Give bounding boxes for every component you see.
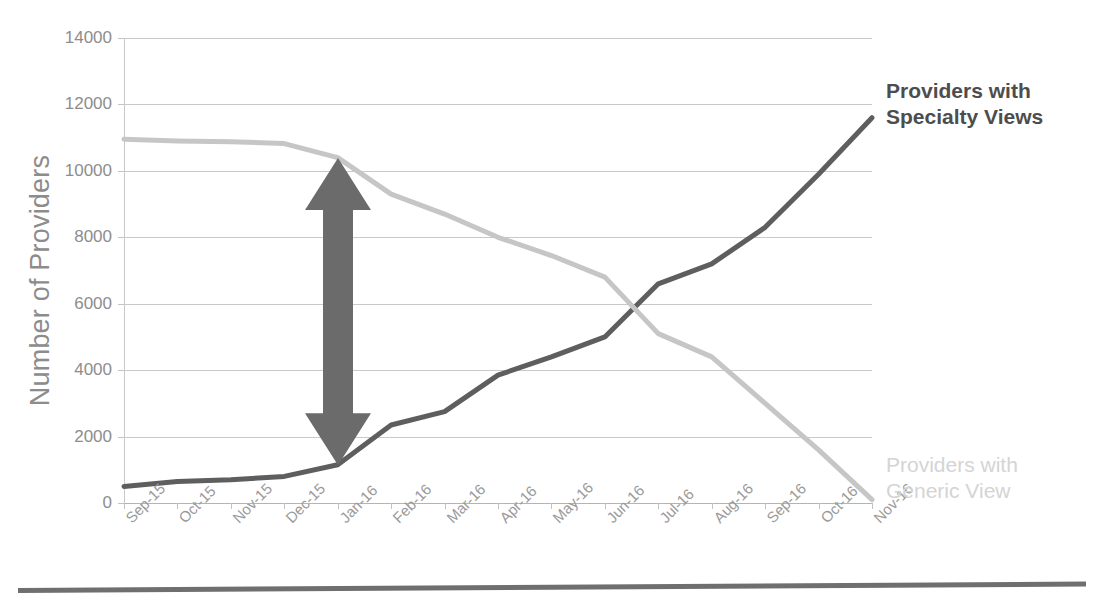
series-label-generic: Providers with Generic View bbox=[886, 452, 1018, 503]
series-label-generic-line2: Generic View bbox=[886, 478, 1018, 504]
y-tick-label: 8000 bbox=[22, 227, 112, 247]
y-tickmark bbox=[118, 104, 124, 105]
x-tickmark bbox=[391, 503, 392, 509]
series-line bbox=[124, 118, 872, 487]
x-tickmark bbox=[712, 503, 713, 509]
y-tickmark bbox=[118, 503, 124, 504]
x-tick-label: Dec-15 bbox=[282, 514, 294, 526]
x-tickmark bbox=[819, 503, 820, 509]
y-tickmark bbox=[118, 38, 124, 39]
double-headed-arrow-shape bbox=[305, 158, 371, 465]
x-tickmark bbox=[551, 503, 552, 509]
x-tick-label: Oct-16 bbox=[817, 514, 829, 526]
line-chart: Number of Providers 02000400060008000100… bbox=[0, 0, 1105, 608]
series-label-specialty-line1: Providers with bbox=[886, 78, 1043, 104]
series-label-specialty: Providers with Specialty Views bbox=[886, 78, 1043, 129]
y-tick-label: 6000 bbox=[22, 294, 112, 314]
x-tick-label: Mar-16 bbox=[443, 514, 455, 526]
y-tickmark bbox=[118, 437, 124, 438]
x-tickmark bbox=[177, 503, 178, 509]
x-tickmark bbox=[231, 503, 232, 509]
x-tickmark bbox=[605, 503, 606, 509]
x-tick-label: Oct-15 bbox=[175, 514, 187, 526]
x-tick-label: Feb-16 bbox=[389, 514, 401, 526]
y-tickmark bbox=[118, 237, 124, 238]
y-tickmark bbox=[118, 304, 124, 305]
series-label-generic-line1: Providers with bbox=[886, 452, 1018, 478]
y-tick-label: 2000 bbox=[22, 427, 112, 447]
x-tickmark bbox=[872, 503, 873, 509]
x-tick-label: Sep-16 bbox=[763, 514, 775, 526]
series-line bbox=[124, 139, 872, 499]
x-tickmark bbox=[765, 503, 766, 509]
y-tick-label: 14000 bbox=[22, 28, 112, 48]
x-tick-label: May-16 bbox=[549, 514, 561, 526]
x-tick-label: Nov-16 bbox=[870, 514, 882, 526]
x-tickmark bbox=[124, 503, 125, 509]
series-label-specialty-line2: Specialty Views bbox=[886, 104, 1043, 130]
x-axis-tick-labels: Sep-15Oct-15Nov-15Dec-15Jan-16Feb-16Mar-… bbox=[124, 512, 872, 592]
series-lines bbox=[124, 38, 872, 503]
x-tick-label: Sep-15 bbox=[122, 514, 134, 526]
plot-area bbox=[124, 38, 872, 503]
y-tickmark bbox=[118, 370, 124, 371]
x-tickmark bbox=[338, 503, 339, 509]
y-tick-label: 0 bbox=[22, 493, 112, 513]
x-tick-label: Aug-16 bbox=[710, 514, 722, 526]
y-tickmark bbox=[118, 171, 124, 172]
x-tickmark bbox=[498, 503, 499, 509]
x-tick-label: Jul-16 bbox=[656, 514, 668, 526]
y-axis-tick-labels: 02000400060008000100001200014000 bbox=[20, 0, 112, 608]
x-tick-label: Jun-16 bbox=[603, 514, 615, 526]
x-tickmark bbox=[445, 503, 446, 509]
y-tick-label: 10000 bbox=[22, 161, 112, 181]
y-tick-label: 4000 bbox=[22, 360, 112, 380]
x-tick-label: Nov-15 bbox=[229, 514, 241, 526]
gap-arrow-icon bbox=[305, 158, 371, 465]
x-tick-label: Apr-16 bbox=[496, 514, 508, 526]
y-tick-label: 12000 bbox=[22, 94, 112, 114]
x-tick-label: Jan-16 bbox=[336, 514, 348, 526]
x-tickmark bbox=[284, 503, 285, 509]
x-tickmark bbox=[658, 503, 659, 509]
